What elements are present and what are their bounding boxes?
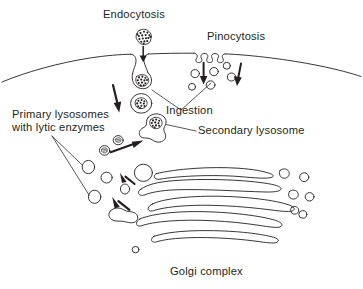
- arrow-pinocytosis-1: [200, 63, 208, 85]
- label-ingestion: Ingestion: [166, 104, 213, 117]
- label-primary-lysosomes: Primary lysosomes with lytic enzymes: [12, 108, 109, 133]
- arrow-vacuole-descent: [113, 85, 121, 112]
- leader-line-primary-lysosomes: [52, 136, 89, 195]
- golgi-cisternae: [137, 168, 295, 243]
- label-endocytosis: Endocytosis: [103, 8, 165, 21]
- label-golgi-complex: Golgi complex: [170, 265, 243, 278]
- pinocytic-vesicles: [189, 62, 236, 90]
- secondary-lysosome-shape: [139, 114, 166, 142]
- plasma-membrane: [2, 53, 361, 82]
- leader-line-secondary-lysosome: [167, 125, 196, 131]
- phagocytosed-particle: [136, 29, 151, 44]
- primary-lysosome-enzyme-1: [113, 136, 123, 145]
- phagocytic-vacuole-1: [132, 73, 151, 89]
- primary-lysosome-enzyme-2: [99, 146, 109, 156]
- cell-biology-diagram: Endocytosis Pinocytosis Ingestion Primar…: [0, 0, 363, 289]
- primary-lysosome-vesicles: [82, 160, 152, 222]
- arrow-golgi-to-vesicle-2: [112, 197, 129, 210]
- phagocytic-vacuole-2: [131, 94, 152, 114]
- arrow-endocytosis-entry: [140, 47, 147, 63]
- arrow-lysosome-fusion: [111, 140, 144, 152]
- arrow-golgi-to-vesicle-1: [120, 173, 135, 184]
- label-pinocytosis: Pinocytosis: [207, 30, 265, 43]
- diagram-canvas: [0, 0, 363, 289]
- label-secondary-lysosome: Secondary lysosome: [198, 124, 305, 137]
